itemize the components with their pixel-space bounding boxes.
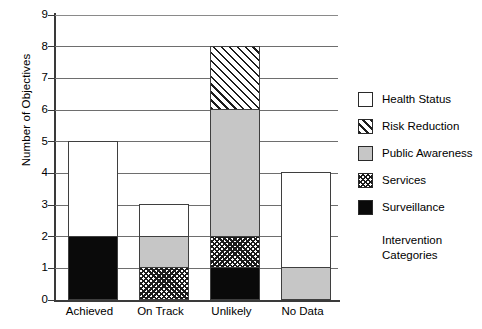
y-tick-label-0: 0 (22, 294, 48, 306)
x-tick-label-on-track: On Track (125, 305, 196, 318)
bar-segment-surveillance[interactable] (68, 236, 118, 300)
legend-item-label: Public Awareness (382, 147, 473, 160)
x-axis-tick-labels: AchievedOn TrackUnlikelyNo Data (54, 305, 338, 323)
legend-item-public-awareness[interactable]: Public Awareness (358, 140, 482, 167)
x-tick-label-achieved: Achieved (54, 305, 125, 318)
bar-segment-health-status[interactable] (139, 204, 189, 237)
legend: Health StatusRisk ReductionPublic Awaren… (358, 86, 482, 262)
bar-segment-health-status[interactable] (68, 141, 118, 237)
bar-unlikely[interactable] (210, 15, 260, 300)
y-tick-label-7: 7 (22, 72, 48, 84)
y-tick-label-6: 6 (22, 104, 48, 116)
y-tick-label-5: 5 (22, 136, 48, 148)
legend-swatch-icon (358, 92, 373, 107)
y-tick-label-9: 9 (22, 9, 48, 21)
bar-segment-services[interactable] (210, 236, 260, 269)
bar-no-data[interactable] (281, 15, 331, 300)
legend-item-label: Surveillance (382, 201, 445, 214)
y-tick-label-1: 1 (22, 262, 48, 274)
y-tick-label-8: 8 (22, 41, 48, 53)
legend-title: Intervention Categories (382, 233, 482, 262)
bar-segment-public-awareness[interactable] (210, 109, 260, 237)
x-axis-line (54, 300, 340, 302)
legend-title-line-1: Intervention (382, 233, 482, 248)
bar-segment-health-status[interactable] (281, 172, 331, 268)
legend-swatch-icon (358, 119, 373, 134)
bar-segment-services[interactable] (139, 267, 189, 300)
legend-item-label: Health Status (382, 93, 451, 106)
legend-title-line-2: Categories (382, 248, 482, 263)
legend-item-risk-reduction[interactable]: Risk Reduction (358, 113, 482, 140)
bars-layer (54, 15, 338, 300)
y-axis-tick-labels: 0123456789 (20, 15, 48, 300)
bar-segment-public-awareness[interactable] (281, 267, 331, 300)
bar-achieved[interactable] (68, 15, 118, 300)
x-tick-label-unlikely: Unlikely (196, 305, 267, 318)
y-tick-label-2: 2 (22, 231, 48, 243)
x-tick-label-no-data: No Data (267, 305, 338, 318)
legend-item-health-status[interactable]: Health Status (358, 86, 482, 113)
y-tick-label-4: 4 (22, 167, 48, 179)
chart-container: Number of Objectives 0123456789 Achieved… (0, 0, 482, 329)
legend-swatch-icon (358, 146, 373, 161)
legend-item-label: Services (382, 174, 426, 187)
bar-on-track[interactable] (139, 15, 189, 300)
legend-item-services[interactable]: Services (358, 167, 482, 194)
legend-item-label: Risk Reduction (382, 120, 459, 133)
legend-swatch-icon (358, 173, 373, 188)
bar-segment-risk-reduction[interactable] (210, 46, 260, 110)
bar-segment-public-awareness[interactable] (139, 236, 189, 269)
bar-segment-surveillance[interactable] (210, 267, 260, 300)
plot-area (54, 15, 338, 300)
y-tick-label-3: 3 (22, 199, 48, 211)
legend-swatch-icon (358, 200, 373, 215)
legend-item-surveillance[interactable]: Surveillance (358, 194, 482, 221)
legend-entries: Health StatusRisk ReductionPublic Awaren… (358, 86, 482, 221)
